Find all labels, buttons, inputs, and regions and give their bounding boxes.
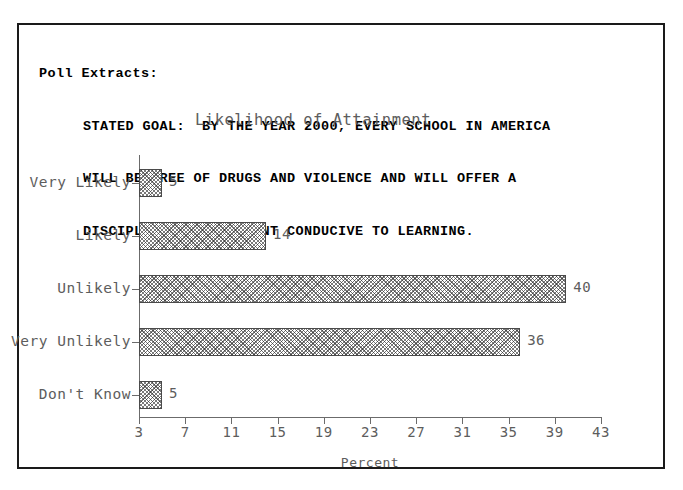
- bar-value-label: 14: [273, 226, 291, 242]
- category-tick: [132, 236, 139, 237]
- x-axis-tick-label: 43: [592, 424, 610, 440]
- bar-value-label: 5: [169, 385, 178, 401]
- x-axis-tick: [278, 417, 279, 424]
- x-axis-tick-label: 31: [453, 424, 471, 440]
- bar-don-t-know: [139, 381, 162, 409]
- category-label: Unlikely: [0, 280, 131, 296]
- bar-row: 14: [139, 222, 601, 250]
- x-axis-tick-label: 15: [269, 424, 287, 440]
- bar-unlikely: [139, 275, 566, 303]
- category-label: Very Likely: [0, 174, 131, 190]
- bar-row: 5: [139, 169, 601, 197]
- x-axis-tick: [509, 417, 510, 424]
- x-axis-tick-label: 19: [315, 424, 333, 440]
- x-axis-tick: [370, 417, 371, 424]
- bar-value-label: 36: [527, 332, 545, 348]
- x-axis-tick: [462, 417, 463, 424]
- category-tick: [132, 289, 139, 290]
- plot-area: 5Very Likely14Likely40Unlikely36Very Unl…: [139, 155, 621, 417]
- bar-row: 36: [139, 328, 601, 356]
- category-label: Likely: [0, 227, 131, 243]
- x-axis-tick-label: 27: [407, 424, 425, 440]
- x-axis-tick: [324, 417, 325, 424]
- bar-very-likely: [139, 169, 162, 197]
- x-axis-tick: [416, 417, 417, 424]
- x-axis-tick-label: 11: [222, 424, 240, 440]
- bar-value-label: 40: [573, 279, 591, 295]
- chart-title: Likelihood of Attainment: [19, 111, 667, 129]
- category-tick: [132, 395, 139, 396]
- x-axis-tick: [139, 417, 140, 424]
- x-axis-tick: [231, 417, 232, 424]
- document-frame: Poll Extracts: STATED GOAL: BY THE YEAR …: [17, 23, 665, 469]
- x-axis-tick: [601, 417, 602, 424]
- category-label: Very Unlikely: [0, 333, 131, 349]
- x-axis-tick-label: 3: [135, 424, 144, 440]
- bar-very-unlikely: [139, 328, 520, 356]
- x-axis-tick-label: 39: [546, 424, 564, 440]
- category-tick: [132, 183, 139, 184]
- bar-likely: [139, 222, 266, 250]
- bar-row: 40: [139, 275, 601, 303]
- bar-chart: Likelihood of Attainment 5Very Likely14L…: [19, 25, 667, 471]
- bar-value-label: 5: [169, 173, 178, 189]
- category-tick: [132, 342, 139, 343]
- category-label: Don't Know: [0, 386, 131, 402]
- bar-row: 5: [139, 381, 601, 409]
- x-axis-tick-label: 23: [361, 424, 379, 440]
- x-axis-tick-label: 7: [181, 424, 190, 440]
- x-axis-label: Percent: [139, 455, 601, 470]
- x-axis-tick: [555, 417, 556, 424]
- x-axis-tick: [185, 417, 186, 424]
- x-axis-tick-label: 35: [500, 424, 518, 440]
